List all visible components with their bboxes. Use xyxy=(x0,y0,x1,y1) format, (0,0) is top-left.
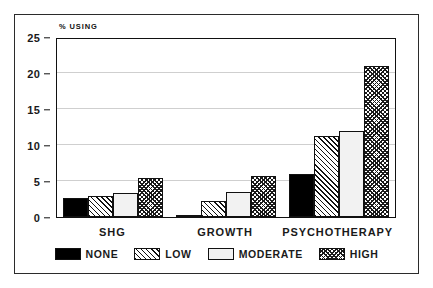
y-tick-mark xyxy=(44,73,50,74)
chart-figure: % USING 0510152025 SHGGROWTHPSYCHOTHERAP… xyxy=(0,0,433,288)
x-category-label: GROWTH xyxy=(197,226,253,238)
y-tick-mark xyxy=(44,37,50,38)
bar-psychotherapy-low[interactable] xyxy=(314,136,339,217)
bar-group-psychotherapy xyxy=(289,39,389,217)
y-tick-label: 25 xyxy=(27,32,40,44)
legend-swatch-low-icon xyxy=(134,248,160,260)
bar-shg-none[interactable] xyxy=(63,198,88,217)
legend-label: MODERATE xyxy=(239,248,303,260)
y-tick-label: 20 xyxy=(27,68,40,80)
y-tick-mark xyxy=(44,145,50,146)
bar-psychotherapy-none[interactable] xyxy=(289,174,314,217)
bar-shg-low[interactable] xyxy=(88,196,113,217)
bar-shg-high[interactable] xyxy=(138,178,163,217)
legend-item-none[interactable]: NONE xyxy=(55,248,119,260)
legend-swatch-high-icon xyxy=(319,248,345,260)
y-tick-label: 15 xyxy=(27,104,40,116)
x-category-label: PSYCHOTHERAPY xyxy=(282,226,393,238)
y-axis: 0510152025 xyxy=(0,38,50,218)
legend-swatch-moderate-icon xyxy=(208,248,234,260)
plot-area xyxy=(56,38,396,218)
x-category-label: SHG xyxy=(99,226,126,238)
bar-growth-high[interactable] xyxy=(251,176,276,217)
bar-group-growth xyxy=(176,39,276,217)
legend-item-moderate[interactable]: MODERATE xyxy=(208,248,303,260)
y-tick-mark xyxy=(44,181,50,182)
bar-group-shg xyxy=(63,39,163,217)
bar-growth-low[interactable] xyxy=(201,201,226,217)
legend-label: NONE xyxy=(86,248,119,260)
y-tick-label: 0 xyxy=(34,212,40,224)
bar-psychotherapy-high[interactable] xyxy=(364,66,389,217)
y-axis-title: % USING xyxy=(59,22,98,31)
chart-legend: NONELOWMODERATEHIGH xyxy=(0,248,433,260)
legend-label: HIGH xyxy=(350,248,379,260)
bar-psychotherapy-moderate[interactable] xyxy=(339,131,364,217)
legend-item-high[interactable]: HIGH xyxy=(319,248,379,260)
bar-shg-moderate[interactable] xyxy=(113,193,138,217)
y-tick-label: 10 xyxy=(27,140,40,152)
bar-growth-moderate[interactable] xyxy=(226,192,251,217)
legend-item-low[interactable]: LOW xyxy=(134,248,191,260)
y-tick-label: 5 xyxy=(34,176,40,188)
y-tick-mark xyxy=(44,217,50,218)
y-tick-mark xyxy=(44,109,50,110)
legend-label: LOW xyxy=(165,248,191,260)
bar-growth-none[interactable] xyxy=(176,215,201,217)
legend-swatch-none-icon xyxy=(55,248,81,260)
